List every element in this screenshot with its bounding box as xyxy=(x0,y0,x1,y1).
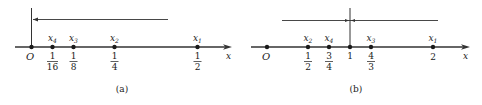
panel-b: x O x2 1 2 x4 3 4 1 x3 4 3 x1 2 xyxy=(251,8,470,94)
fraction-denominator: 2 xyxy=(195,62,201,72)
point-label: x2 xyxy=(110,33,119,44)
fraction-numerator: 1 xyxy=(50,51,56,61)
fraction-numerator: 1 xyxy=(305,51,311,61)
fraction-denominator: 3 xyxy=(368,62,374,72)
fraction-denominator: 8 xyxy=(71,62,77,72)
fraction-denominator: 4 xyxy=(326,62,332,72)
point-x2-b xyxy=(306,45,310,49)
caption-a: (a) xyxy=(116,84,128,94)
fraction-numerator: 1 xyxy=(71,51,77,61)
point-one-b xyxy=(348,45,352,49)
fraction-denominator: 4 xyxy=(112,62,118,72)
fraction-numerator: 1 xyxy=(112,51,118,61)
point-label: x4 xyxy=(325,33,334,44)
tick-label-one: 1 xyxy=(347,51,353,61)
point-x4-a xyxy=(50,45,54,49)
point-x2-a xyxy=(112,45,116,49)
origin-point-b xyxy=(265,45,269,49)
fraction-denominator: 16 xyxy=(47,62,59,72)
point-x1-b xyxy=(431,45,435,49)
fraction-numerator: 1 xyxy=(195,51,201,61)
point-x1-a xyxy=(195,45,199,49)
origin-point-a xyxy=(29,45,33,49)
origin-label-b: O xyxy=(262,51,270,62)
left-arrow-icon xyxy=(33,18,38,22)
point-x3-a xyxy=(71,45,75,49)
point-label: x1 xyxy=(429,33,438,44)
point-label: x1 xyxy=(193,33,202,44)
point-label: x3 xyxy=(69,33,78,44)
point-label: x4 xyxy=(48,33,57,44)
left-arrow-icon xyxy=(351,19,355,22)
point-x3-b xyxy=(369,45,373,49)
fraction-numerator: 3 xyxy=(326,51,332,61)
tick-label-two: 2 xyxy=(430,52,436,62)
origin-label-a: O xyxy=(26,51,34,62)
point-label: x3 xyxy=(367,33,376,44)
panel-a: x O x4 1 16 x3 1 8 x2 1 4 x1 1 2 (a) xyxy=(15,8,232,94)
fraction-numerator: 4 xyxy=(368,51,374,61)
right-arrow-icon xyxy=(345,19,349,22)
caption-b: (b) xyxy=(350,84,363,94)
axis-label-b: x xyxy=(463,51,468,61)
axis-label-a: x xyxy=(226,51,231,61)
point-label: x2 xyxy=(304,33,313,44)
fraction-denominator: 2 xyxy=(305,62,311,72)
point-x4-b xyxy=(327,45,331,49)
figure: x O x4 1 16 x3 1 8 x2 1 4 x1 1 2 (a) xyxy=(0,0,482,105)
